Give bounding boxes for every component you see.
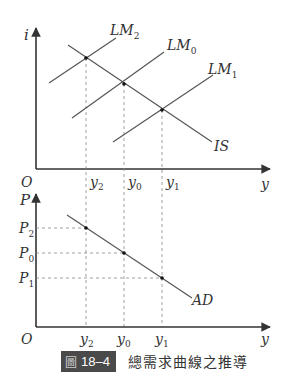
ad-point-1 [160, 276, 164, 280]
is-label: IS [213, 138, 229, 154]
ad-point-0 [122, 251, 126, 255]
ad-point-2 [84, 226, 88, 230]
y-axis-label-top: y [260, 176, 270, 192]
lm0-label: LM0 [166, 37, 197, 56]
figure-number: 18–4 [81, 354, 110, 369]
x-tick-y2-bottom: y2 [79, 331, 94, 349]
lm2-label: LM2 [109, 22, 139, 41]
origin-top: O [21, 174, 33, 190]
figure-caption: 圖 18–4 總需求曲線之推導 [61, 350, 248, 372]
is-curve [68, 45, 212, 142]
x-tick-y0-bottom: y0 [116, 331, 131, 349]
origin-bottom: O [21, 331, 33, 347]
equilibrium-point-2 [84, 56, 88, 60]
bottom-panel: P P2 P0 P1 AD O y2 y0 y1 y [18, 191, 270, 349]
lm2-curve [49, 38, 116, 83]
lm1-label: LM1 [207, 61, 237, 80]
x-tick-y2-top: y2 [89, 174, 104, 192]
p-axis-label: P [19, 191, 31, 209]
figure-badge: 圖 18–4 [61, 351, 116, 372]
top-panel: i LM2 LM0 LM1 IS O y2 y0 y1 y [21, 22, 270, 327]
figure-title: 總需求曲線之推導 [128, 351, 248, 371]
i-axis-label: i [24, 26, 29, 44]
x-tick-y0-top: y0 [127, 174, 142, 192]
ad-label: AD [190, 292, 213, 308]
p1-label: P1 [18, 270, 34, 289]
p0-label: P0 [18, 245, 34, 264]
p2-label: P2 [18, 220, 34, 239]
x-tick-y1-bottom: y1 [154, 331, 169, 349]
figure-icon: 圖 [65, 353, 77, 370]
equilibrium-point-1 [160, 108, 164, 112]
is-lm-ad-diagram: i LM2 LM0 LM1 IS O y2 y0 y1 y P P2 P0 P1… [0, 0, 287, 389]
equilibrium-point-0 [122, 82, 126, 86]
x-tick-y1-top: y1 [165, 174, 180, 192]
y-axis-label-bottom: y [260, 331, 270, 347]
